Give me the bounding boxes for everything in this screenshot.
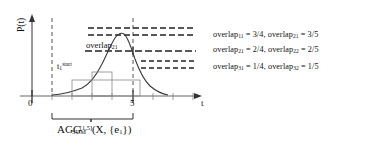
aggregate-subscript: SUM — [72, 128, 86, 135]
inline-overlap-sub: 21 — [112, 44, 118, 50]
x-axis-label: t — [201, 99, 204, 108]
chart-svg — [0, 0, 369, 150]
overlap-equation-row-3: overlap31 = 1/4, overlap32 = 1/5 — [213, 63, 319, 72]
overlap-interval-bars-upper — [88, 28, 196, 35]
equation-2-left-name: overlap — [213, 45, 238, 54]
histogram-step-boxes — [72, 72, 140, 96]
x-tick-label-5: 5 — [130, 99, 135, 108]
equation-1-right-value: = 3/5 — [299, 30, 319, 39]
equation-2-left-value: = 2/4, — [244, 45, 266, 54]
interval-boundary-lines — [52, 18, 133, 96]
x-axis-minor-ticks — [52, 93, 193, 100]
equation-3-left-value: = 1/4, — [244, 62, 266, 71]
equation-3-right-value: = 1/5 — [299, 62, 319, 71]
overlap-equation-row-2: overlap21 = 2/4, overlap22 = 2/5 — [213, 46, 319, 55]
equation-1-left-value: = 3/4, — [244, 30, 266, 39]
x-axis-major-ticks — [32, 90, 133, 103]
x-tick-label-0: 0 — [28, 99, 33, 108]
overlap-interval-bars-lower — [141, 61, 196, 68]
aggregate-args: (X, {e — [92, 123, 119, 135]
inline-overlap-label: overlap21 — [86, 41, 118, 51]
equation-2-right-value: = 2/5 — [299, 45, 319, 54]
equation-2-right-name: overlap — [268, 45, 293, 54]
figure-canvas: P(t) — [0, 0, 369, 150]
inline-overlap-base: overlap — [86, 40, 112, 50]
curve-start-annotation: t1start — [57, 62, 72, 71]
equation-1-right-name: overlap — [268, 30, 293, 39]
equation-1-left-name: overlap — [213, 30, 238, 39]
overlap-equation-row-1: overlap11 = 3/4, overlap21 = 3/5 — [213, 31, 318, 40]
aggregate-range-brace — [52, 113, 133, 122]
aggregate-formula: AGG[1,5]SUM(X, {e1}) — [57, 124, 131, 136]
equation-3-left-name: overlap — [213, 62, 238, 71]
aggregate-args-tail: }) — [122, 123, 131, 135]
curve-annotation-sup: start — [62, 61, 72, 67]
y-axis — [29, 14, 35, 96]
equation-3-right-name: overlap — [268, 62, 293, 71]
